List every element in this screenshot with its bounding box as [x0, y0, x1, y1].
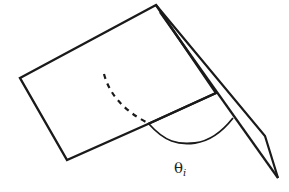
dashed-hidden-arc	[104, 74, 146, 122]
main-plane	[20, 5, 216, 160]
angle-arc	[149, 118, 233, 144]
angle-symbol: θ	[174, 159, 183, 177]
two-plane-angle-diagram	[0, 0, 289, 192]
intersection-edge	[148, 93, 216, 124]
angle-label: θi	[174, 161, 186, 178]
tilted-plane-inner-edge	[160, 12, 278, 178]
angle-subscript: i	[183, 167, 186, 178]
